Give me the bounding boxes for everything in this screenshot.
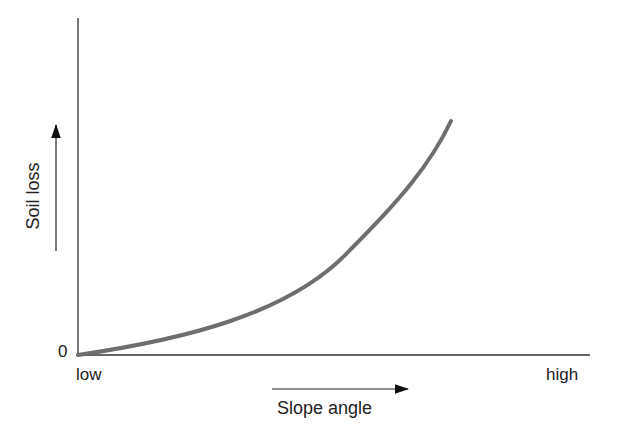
soil-loss-curve (78, 121, 451, 355)
y-axis-title: Soil loss (23, 162, 44, 229)
x-low-label: low (76, 365, 102, 385)
x-axis-title: Slope angle (277, 398, 372, 419)
y-origin-label: 0 (58, 342, 67, 362)
x-high-label: high (546, 365, 578, 385)
